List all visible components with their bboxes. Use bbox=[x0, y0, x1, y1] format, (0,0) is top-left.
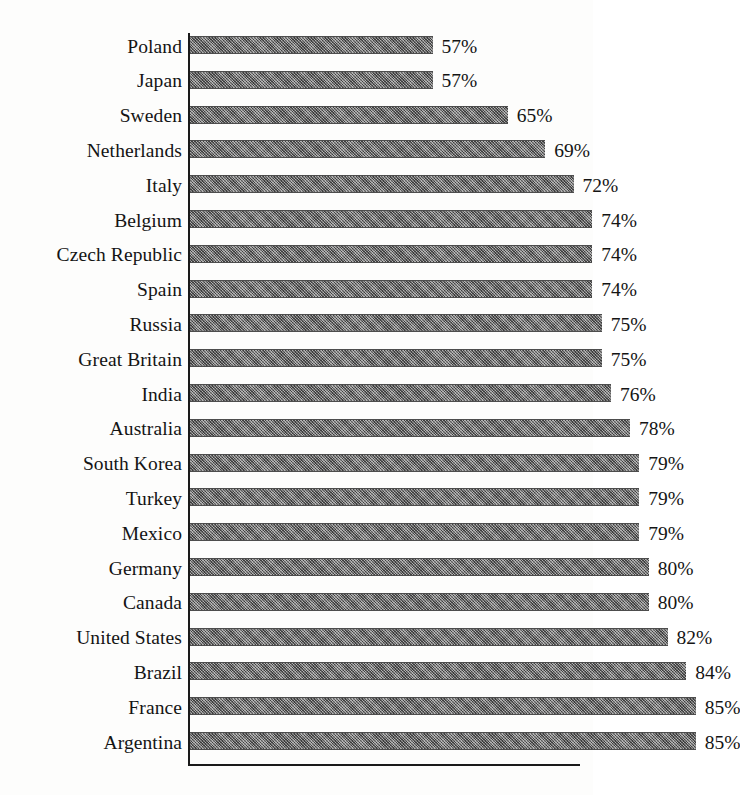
bar bbox=[190, 558, 649, 576]
bar-row: Russia75% bbox=[0, 313, 593, 334]
bar-value-label: 78% bbox=[639, 418, 675, 439]
category-label: Spain bbox=[137, 279, 182, 300]
bar bbox=[190, 71, 433, 89]
bar-row: South Korea79% bbox=[0, 453, 593, 474]
bar bbox=[190, 384, 611, 402]
bar-value-label: 65% bbox=[517, 105, 553, 126]
bar-row: Great Britain75% bbox=[0, 348, 593, 369]
bar bbox=[190, 280, 592, 298]
bar-row: Germany80% bbox=[0, 557, 593, 578]
category-label: Italy bbox=[146, 174, 182, 195]
bar-row: Turkey79% bbox=[0, 487, 593, 508]
bar-value-label: 72% bbox=[583, 174, 619, 195]
category-label: Great Britain bbox=[78, 348, 182, 369]
category-label: Australia bbox=[110, 418, 182, 439]
bar-row: Belgium74% bbox=[0, 209, 593, 230]
bar-row: Japan57% bbox=[0, 70, 593, 91]
bar-row: Argentina85% bbox=[0, 731, 593, 752]
category-label: Poland bbox=[127, 35, 182, 56]
bar bbox=[190, 419, 630, 437]
bar-row: Czech Republic74% bbox=[0, 244, 593, 265]
bar-value-label: 79% bbox=[648, 522, 684, 543]
bar bbox=[190, 106, 508, 124]
bar-row: Spain74% bbox=[0, 279, 593, 300]
bar bbox=[190, 732, 696, 750]
category-label: Turkey bbox=[126, 487, 182, 508]
bar bbox=[190, 628, 668, 646]
bar-row: Netherlands69% bbox=[0, 139, 593, 160]
bar-value-label: 69% bbox=[554, 139, 590, 160]
bar-row: India76% bbox=[0, 383, 593, 404]
bar-row: Mexico79% bbox=[0, 522, 593, 543]
bar-value-label: 84% bbox=[695, 661, 731, 682]
bar-value-label: 82% bbox=[677, 627, 713, 648]
category-label: Russia bbox=[129, 313, 182, 334]
category-label: India bbox=[141, 383, 182, 404]
bar bbox=[190, 662, 686, 680]
category-label: Argentina bbox=[103, 731, 182, 752]
bar bbox=[190, 697, 696, 715]
bar-value-label: 75% bbox=[611, 313, 647, 334]
bar bbox=[190, 488, 639, 506]
bar-value-label: 74% bbox=[601, 209, 637, 230]
bar bbox=[190, 36, 433, 54]
category-label: Netherlands bbox=[87, 139, 182, 160]
bar-row: Italy72% bbox=[0, 174, 593, 195]
bar-value-label: 57% bbox=[442, 35, 478, 56]
bar-value-label: 75% bbox=[611, 348, 647, 369]
bar bbox=[190, 349, 602, 367]
bar bbox=[190, 593, 649, 611]
bar-row: Poland57% bbox=[0, 35, 593, 56]
category-label: South Korea bbox=[83, 453, 182, 474]
bar bbox=[190, 523, 639, 541]
bar-value-label: 85% bbox=[705, 731, 740, 752]
bar bbox=[190, 454, 639, 472]
category-label: United States bbox=[76, 627, 182, 648]
bar-value-label: 74% bbox=[601, 244, 637, 265]
category-label: Germany bbox=[109, 557, 182, 578]
bar-row: Brazil84% bbox=[0, 661, 593, 682]
bar-value-label: 76% bbox=[620, 383, 656, 404]
bar bbox=[190, 140, 545, 158]
bar-row: Sweden65% bbox=[0, 105, 593, 126]
category-label: France bbox=[128, 696, 182, 717]
bar-value-label: 79% bbox=[648, 487, 684, 508]
bar-row: France85% bbox=[0, 696, 593, 717]
bar bbox=[190, 314, 602, 332]
bar-value-label: 79% bbox=[648, 453, 684, 474]
category-axis-line bbox=[188, 764, 580, 766]
bar-value-label: 57% bbox=[442, 70, 478, 91]
category-label: Sweden bbox=[120, 105, 182, 126]
category-label: Brazil bbox=[134, 661, 182, 682]
bar-row: United States82% bbox=[0, 627, 593, 648]
bar-value-label: 85% bbox=[705, 696, 740, 717]
bar-row: Canada80% bbox=[0, 592, 593, 613]
bar-value-label: 80% bbox=[658, 592, 694, 613]
category-label: Canada bbox=[123, 592, 182, 613]
category-label: Czech Republic bbox=[57, 244, 182, 265]
bar-value-label: 74% bbox=[601, 279, 637, 300]
bar-row: Australia78% bbox=[0, 418, 593, 439]
bar-value-label: 80% bbox=[658, 557, 694, 578]
category-label: Japan bbox=[137, 70, 182, 91]
bar bbox=[190, 175, 574, 193]
bar bbox=[190, 245, 592, 263]
category-label: Mexico bbox=[122, 522, 182, 543]
category-label: Belgium bbox=[114, 209, 182, 230]
bar bbox=[190, 210, 592, 228]
